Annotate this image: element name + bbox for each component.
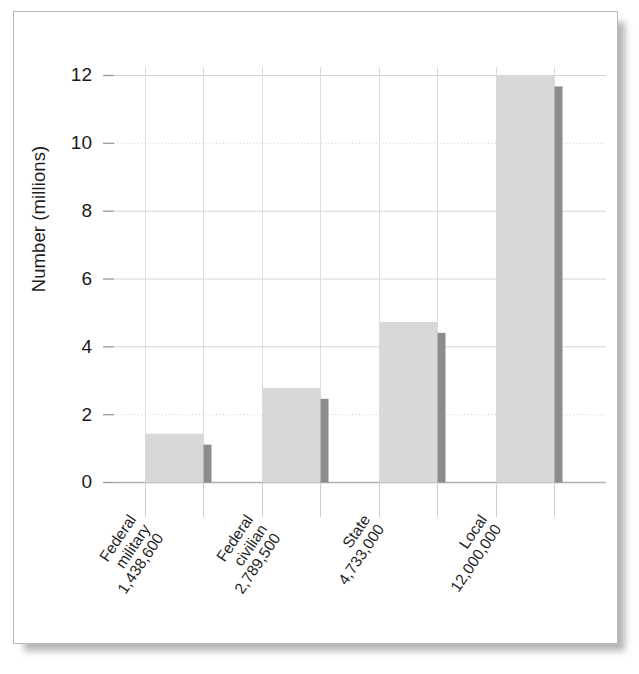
- y-axis-title: Number (millions): [28, 119, 50, 319]
- y-tick-label-0: 0: [52, 471, 92, 493]
- y-tick-label-2: 2: [52, 404, 92, 426]
- figure-frame: 12 10 8 6 4 2 0 Number (millions) Federa…: [13, 11, 618, 644]
- y-tick-label-8: 8: [52, 200, 92, 222]
- bar-local[interactable]: [497, 76, 563, 483]
- y-tick-label-6: 6: [52, 268, 92, 290]
- y-tick-label-12: 12: [52, 64, 92, 86]
- bar-federal-military[interactable]: [146, 434, 212, 483]
- bar-state[interactable]: [380, 322, 446, 483]
- bar-chart: 12 10 8 6 4 2 0 Number (millions) Federa…: [14, 12, 619, 645]
- x-tick-marks: [146, 483, 555, 518]
- y-tick-label-4: 4: [52, 336, 92, 358]
- bar-federal-civilian[interactable]: [263, 388, 329, 483]
- y-tick-label-10: 10: [52, 132, 92, 154]
- y-tick-marks: [103, 76, 114, 483]
